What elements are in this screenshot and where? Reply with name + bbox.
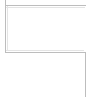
middle-horizontal-rule [5,52,86,53]
left-inner-highlight [7,6,8,51]
left-vertical-rule [5,0,6,53]
middle-inner-highlight [6,50,84,51]
top-horizontal-rule [5,5,86,6]
alt-text: Stepped frame corner: rectangular outlin… [0,0,1,1]
top-inner-highlight [6,7,85,8]
upper-panel-region [5,5,86,52]
right-vertical-rule [85,52,86,97]
screenshot-canvas: Stepped frame corner: rectangular outlin… [0,0,90,97]
